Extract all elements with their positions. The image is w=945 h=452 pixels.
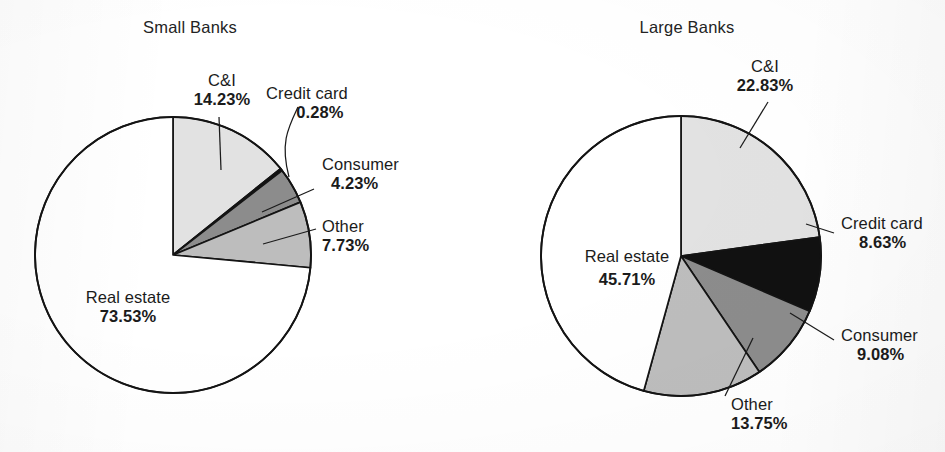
label-ci-name: C&I: [208, 71, 236, 89]
label-credit-card-name: Credit card: [266, 84, 348, 102]
label-consumer-name: Consumer: [841, 326, 918, 344]
label-real-estate-value: 45.71%: [599, 270, 656, 288]
small-banks-svg: Small Banks C&I 14.23% Credit card 0.28%…: [0, 0, 472, 452]
label-other-value: 13.75%: [731, 414, 788, 432]
pie-chart-small-banks: Small Banks C&I 14.23% Credit card 0.28%…: [0, 0, 472, 452]
large-banks-svg: Large Banks C&I 22.83% Credit card 8.63%…: [472, 0, 945, 452]
chart-title-small-banks: Small Banks: [143, 18, 237, 36]
label-real-estate-name: Real estate: [86, 288, 171, 306]
small-banks-slices: [35, 117, 311, 393]
label-consumer-value: 4.23%: [331, 174, 379, 192]
pie-chart-large-banks: Large Banks C&I 22.83% Credit card 8.63%…: [472, 0, 945, 452]
label-other-value: 7.73%: [322, 236, 370, 254]
label-ci-name: C&I: [751, 57, 779, 75]
label-credit-card-value: 0.28%: [296, 103, 344, 121]
label-other-name: Other: [731, 395, 773, 413]
large-banks-slices: [541, 116, 821, 396]
label-consumer-value: 9.08%: [857, 345, 905, 363]
label-real-estate-name: Real estate: [585, 247, 670, 265]
chart-title-large-banks: Large Banks: [640, 18, 735, 36]
label-real-estate-value: 73.53%: [100, 307, 157, 325]
label-credit-card-name: Credit card: [841, 214, 923, 232]
label-credit-card-value: 8.63%: [859, 233, 907, 251]
slice-ci[interactable]: [681, 116, 820, 256]
label-ci-value: 14.23%: [194, 90, 251, 108]
label-consumer-name: Consumer: [322, 155, 399, 173]
label-other-name: Other: [322, 217, 364, 235]
label-ci-value: 22.83%: [737, 76, 794, 94]
